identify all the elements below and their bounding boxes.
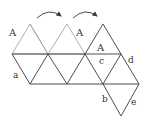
edge-diag-5	[103, 54, 121, 84]
light-connector	[30, 24, 48, 54]
label-A-middle: A	[75, 27, 84, 38]
label-A-right: A	[96, 42, 105, 53]
triangle-A-left	[12, 24, 48, 54]
edge-diag-3	[67, 54, 85, 84]
diagram-canvas: A A A c d a b e	[0, 0, 149, 122]
edge-diag-1	[30, 54, 48, 84]
label-a: a	[13, 70, 19, 80]
curved-arrow-icon	[37, 12, 61, 18]
edge-diag-2	[48, 54, 67, 84]
light-top-triangles	[12, 24, 85, 54]
fold-arrows	[37, 12, 97, 18]
label-b: b	[102, 94, 108, 104]
label-c: c	[99, 56, 104, 66]
label-e: e	[131, 97, 136, 107]
label-A-left: A	[8, 27, 17, 38]
curved-arrow-icon	[73, 12, 97, 18]
triangle-net-diagram: A A A c d a b e	[0, 0, 149, 122]
label-d: d	[128, 55, 134, 65]
